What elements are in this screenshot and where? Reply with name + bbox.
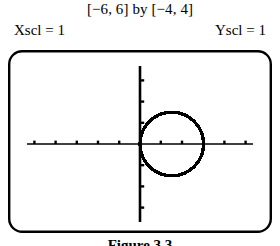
window-range-label: [−6, 6] by [−4, 4] — [0, 0, 280, 19]
graph-plot — [8, 50, 272, 233]
yscl-label: Yscl = 1 — [215, 20, 266, 41]
calculator-screen — [8, 50, 272, 233]
figure-caption: Figure 3.3 — [0, 236, 280, 246]
figure-container: [−6, 6] by [−4, 4] Xscl = 1 Yscl = 1 — [0, 0, 280, 246]
xscl-label: Xscl = 1 — [14, 20, 65, 41]
scale-row: Xscl = 1 Yscl = 1 — [0, 20, 280, 42]
